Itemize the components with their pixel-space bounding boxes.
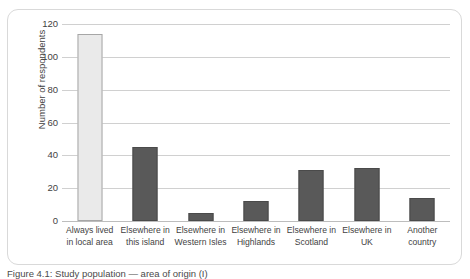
x-tick-label: Elsewhere inUK <box>339 225 394 248</box>
x-tick-label: Elsewhere inWestern Isles <box>173 225 228 248</box>
x-tick-label-line: Elsewhere in <box>228 225 283 237</box>
figure-container: Number of respondents 020406080100120 Al… <box>0 0 470 279</box>
x-tick-label-line: Elsewhere in <box>117 225 172 237</box>
gridline-0 <box>62 221 450 222</box>
x-tick-label: Elsewhere inthis island <box>117 225 172 248</box>
bar[interactable] <box>410 198 435 221</box>
y-tick-label: 100 <box>24 52 58 62</box>
y-tick-label: 80 <box>24 85 58 95</box>
x-axis-labels: Always livedin local areaElsewhere inthi… <box>62 225 450 259</box>
x-tick-label-line: country <box>395 237 450 249</box>
bar[interactable] <box>133 147 158 221</box>
x-tick-label-line: in local area <box>62 237 117 249</box>
x-tick-label: Anothercountry <box>395 225 450 248</box>
x-tick-label-line: this island <box>117 237 172 249</box>
y-tick-label: 60 <box>24 118 58 128</box>
x-tick-label: Elsewhere inHighlands <box>228 225 283 248</box>
bar[interactable] <box>77 34 102 221</box>
bar-slot <box>117 24 172 221</box>
bar-slot <box>173 24 228 221</box>
x-tick-label-line: Always lived <box>62 225 117 237</box>
bar[interactable] <box>243 201 268 221</box>
x-tick-label-line: Elsewhere in <box>284 225 339 237</box>
x-tick-label-line: Highlands <box>228 237 283 249</box>
bar-slot <box>284 24 339 221</box>
x-tick-label: Always livedin local area <box>62 225 117 248</box>
bar[interactable] <box>188 213 213 221</box>
bar[interactable] <box>354 168 379 221</box>
y-tick-label: 40 <box>24 150 58 160</box>
x-tick-label: Elsewhere inScotland <box>284 225 339 248</box>
y-tick-label: 20 <box>24 183 58 193</box>
bar-slot <box>395 24 450 221</box>
x-tick-label-line: Another <box>395 225 450 237</box>
bar-slot <box>339 24 394 221</box>
plot-area <box>62 24 450 221</box>
bar-series <box>62 24 450 221</box>
y-tick-label: 0 <box>24 216 58 226</box>
x-tick-label-line: Scotland <box>284 237 339 249</box>
figure-caption: Figure 4.1: Study population — area of o… <box>7 268 463 279</box>
bar[interactable] <box>299 170 324 221</box>
x-tick-label-line: Elsewhere in <box>173 225 228 237</box>
x-tick-label-line: Elsewhere in <box>339 225 394 237</box>
y-tick-label: 120 <box>24 19 58 29</box>
y-axis-ticks: 020406080100120 <box>20 24 58 221</box>
bar-slot <box>62 24 117 221</box>
x-tick-label-line: UK <box>339 237 394 249</box>
x-tick-label-line: Western Isles <box>173 237 228 249</box>
bar-slot <box>228 24 283 221</box>
